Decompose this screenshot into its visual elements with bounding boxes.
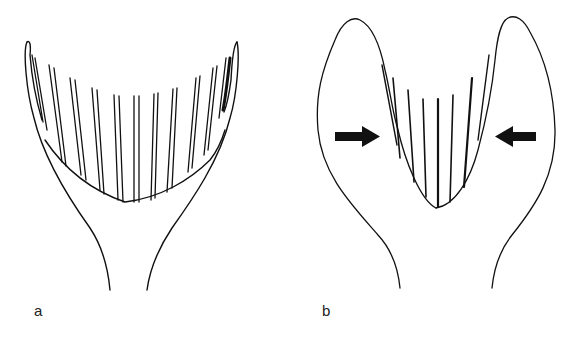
fringe-line — [70, 78, 81, 175]
fringe-line — [92, 88, 100, 190]
arrow-left-icon — [495, 126, 536, 147]
panel-a-left-lip — [27, 42, 42, 120]
fringe-line — [450, 95, 453, 202]
panel-a-drawing — [25, 42, 238, 290]
panel-b-drawing — [317, 17, 555, 288]
panel-label-a: a — [34, 302, 42, 319]
fringe-line — [155, 93, 158, 198]
fringe-line — [32, 55, 43, 122]
fringe-line — [35, 58, 47, 130]
fringe-line — [151, 94, 154, 200]
fringe-line — [192, 76, 200, 168]
panel-b-right-lobe — [436, 17, 555, 288]
figure-drawing — [0, 0, 567, 343]
fringe-line — [188, 78, 196, 172]
panel-a-fringe — [32, 55, 226, 202]
fringe-line — [393, 78, 400, 158]
panel-b-left-lobe — [317, 19, 436, 288]
panel-label-b: b — [322, 302, 330, 319]
fringe-line — [114, 95, 118, 200]
fringe-line — [408, 90, 414, 182]
fringe-line — [119, 96, 123, 202]
figure: a b — [0, 0, 567, 343]
fringe-line — [423, 99, 426, 197]
panel-b-fringe — [382, 55, 489, 207]
arrow-right-icon — [335, 126, 380, 147]
fringe-line — [97, 90, 104, 194]
panel-a-cup-base — [45, 130, 225, 202]
